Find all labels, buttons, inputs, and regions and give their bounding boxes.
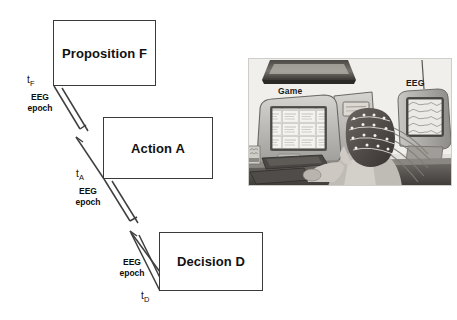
- side-device: [248, 146, 260, 164]
- epoch-label-f: EEG epoch: [18, 92, 62, 113]
- photo-caption-game: Game: [278, 86, 302, 96]
- epoch-label-a: EEG epoch: [66, 186, 110, 207]
- epoch-line-f-inner: [62, 88, 88, 131]
- time-marker-td: tD: [141, 290, 149, 301]
- epoch-tick-f: [80, 125, 86, 129]
- epoch-label-d-line2: epoch: [110, 268, 154, 279]
- epoch-label-a-line1: EEG: [66, 186, 110, 197]
- photo-caption-eeg: EEG: [406, 78, 425, 88]
- overhead-shelf: [262, 60, 356, 84]
- time-marker-td-subscript: D: [144, 295, 149, 304]
- figure-canvas: Proposition F Action A Decision D tF tA …: [0, 0, 457, 320]
- epoch-label-d: EEG epoch: [110, 257, 154, 278]
- link-f-to-a-tick: [76, 137, 83, 142]
- epoch-label-d-line1: EEG: [110, 257, 154, 268]
- node-proposition-f-label: Proposition F: [62, 46, 147, 61]
- epoch-label-a-line2: epoch: [66, 197, 110, 208]
- epoch-label-f-line2: epoch: [18, 103, 62, 114]
- link-a-to-d-tick: [130, 231, 137, 236]
- time-marker-tf: tF: [27, 74, 34, 85]
- time-marker-ta-subscript: A: [79, 173, 84, 182]
- node-decision-d: Decision D: [159, 232, 263, 291]
- time-marker-tf-subscript: F: [30, 79, 35, 88]
- node-action-a: Action A: [103, 117, 213, 179]
- epoch-line-a-inner: [112, 181, 138, 223]
- node-action-a-label: Action A: [131, 141, 185, 156]
- epoch-tick-a: [130, 217, 137, 221]
- time-marker-ta: tA: [76, 168, 84, 179]
- epoch-label-f-line1: EEG: [18, 92, 62, 103]
- node-proposition-f: Proposition F: [53, 20, 156, 86]
- node-decision-d-label: Decision D: [177, 254, 245, 269]
